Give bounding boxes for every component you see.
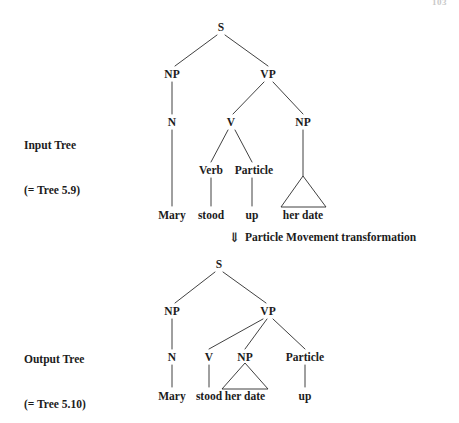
input-terminal-her-date: her date bbox=[283, 209, 323, 221]
input-node-s: S bbox=[218, 21, 224, 33]
out-np-triangle-her-date bbox=[222, 363, 268, 389]
input-node-particle: Particle bbox=[235, 164, 273, 176]
input-node-v: V bbox=[227, 116, 236, 128]
output-node-vp: VP bbox=[260, 305, 275, 317]
edge-vp-to-v bbox=[233, 82, 264, 114]
transformation-note-text: Particle Movement transformation bbox=[245, 231, 416, 243]
output-node-np-object: NP bbox=[237, 351, 252, 363]
output-node-n: N bbox=[168, 351, 177, 363]
input-node-vp: VP bbox=[260, 68, 275, 80]
edge-v-to-particle bbox=[235, 130, 252, 162]
out-edge-vp-to-np bbox=[245, 319, 267, 349]
output-node-particle: Particle bbox=[286, 351, 324, 363]
output-node-v: V bbox=[205, 351, 214, 363]
output-terminal-mary: Mary bbox=[158, 390, 186, 403]
input-node-verb: Verb bbox=[199, 164, 223, 176]
out-edge-vp-to-particle bbox=[273, 319, 305, 349]
input-node-np-subject: NP bbox=[164, 68, 179, 80]
output-terminal-her-date: her date bbox=[225, 390, 265, 402]
transformation-note: ⇓Particle Movement transformation bbox=[229, 230, 416, 246]
syntax-tree-figure: 103 Input Tree (= Tree 5.9) Output Tree … bbox=[0, 0, 459, 423]
np-triangle-her-date bbox=[281, 176, 326, 207]
input-tree-diagram: S NP VP N V NP Verb Particle Mary stood … bbox=[0, 0, 459, 228]
edge-s-to-np bbox=[175, 35, 217, 66]
input-terminal-stood: stood bbox=[198, 209, 225, 221]
input-node-np-object: NP bbox=[295, 116, 310, 128]
input-node-n: N bbox=[168, 116, 177, 128]
output-node-s: S bbox=[216, 258, 222, 270]
double-down-arrow-icon: ⇓ bbox=[229, 230, 240, 246]
output-tree-diagram: S NP VP N V NP Particle Mary stood her d… bbox=[0, 253, 459, 423]
out-edge-s-to-vp bbox=[223, 272, 266, 303]
edge-vp-to-np bbox=[273, 82, 303, 114]
output-terminal-stood: stood bbox=[196, 390, 223, 402]
edge-v-to-verb bbox=[211, 130, 228, 162]
out-edge-s-to-np bbox=[175, 272, 215, 303]
input-terminal-mary: Mary bbox=[158, 209, 186, 222]
output-node-np-subject: NP bbox=[164, 305, 179, 317]
output-terminal-up: up bbox=[299, 390, 312, 403]
input-terminal-up: up bbox=[246, 209, 259, 222]
out-edge-vp-to-v bbox=[209, 319, 263, 349]
edge-s-to-vp bbox=[225, 35, 268, 66]
